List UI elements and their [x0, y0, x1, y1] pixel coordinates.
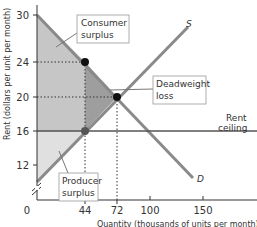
x-tick-0: 0 — [24, 205, 30, 216]
deadweight-line1: Deadweight — [156, 79, 211, 89]
y-tick-20: 20 — [16, 92, 29, 103]
supply-label: S — [186, 19, 192, 29]
producer-surplus-line1: Producer — [62, 176, 102, 186]
y-ticks — [33, 15, 37, 165]
x-tick-72: 72 — [111, 205, 124, 216]
producer-surplus-line2: surplus — [62, 188, 95, 198]
point-ceiling-supply — [81, 127, 89, 135]
rent-ceiling-label-line1: Rent — [226, 113, 247, 123]
y-tick-24: 24 — [16, 57, 29, 68]
consumer-surplus-line1: Consumer — [81, 18, 127, 28]
y-tick-30: 30 — [16, 10, 29, 21]
demand-label: D — [197, 174, 204, 184]
y-tick-16: 16 — [16, 126, 29, 137]
rent-ceiling-label-line2: ceiling — [218, 123, 247, 133]
deadweight-line2: loss — [156, 91, 174, 101]
deadweight-leader — [110, 89, 153, 90]
x-tick-44: 44 — [79, 205, 92, 216]
point-equilibrium — [113, 93, 121, 101]
x-tick-150: 150 — [193, 205, 212, 216]
x-tick-100: 100 — [140, 205, 159, 216]
rent-ceiling-chart: 30 24 20 16 12 0 44 72 100 150 Rent (dol… — [0, 0, 257, 227]
x-axis-title: Quantity (thousands of units per month) — [97, 220, 257, 227]
point-demand-price — [81, 58, 89, 66]
y-tick-12: 12 — [16, 160, 29, 171]
y-axis-title: Rent (dollars per unit per month) — [3, 8, 12, 140]
consumer-surplus-line2: surplus — [81, 30, 114, 40]
